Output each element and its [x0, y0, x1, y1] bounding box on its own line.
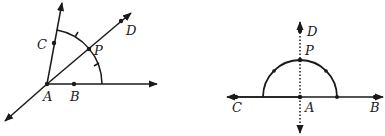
point-a-left — [45, 82, 49, 86]
label-b-left: B — [69, 89, 80, 104]
right-figure-perpendicular — [227, 22, 383, 133]
point-b-left — [72, 82, 76, 86]
label-a-right: A — [304, 100, 314, 115]
label-d-left: D — [125, 23, 137, 38]
label-a-left: A — [42, 89, 52, 104]
point-d-right — [298, 29, 302, 33]
label-b-right: B — [369, 100, 380, 115]
arc-mark-left — [272, 69, 276, 73]
left-figure-angle-bisector — [5, 3, 157, 121]
point-p-left — [87, 47, 91, 51]
left-figure-labels: A B C P D — [37, 23, 137, 104]
label-c-left: C — [37, 37, 47, 52]
label-p-right: P — [304, 43, 314, 58]
arc-end-right — [335, 95, 339, 99]
label-d-right: D — [306, 24, 318, 39]
right-figure-points — [234, 29, 377, 99]
point-c-left — [52, 41, 56, 45]
label-c-right: C — [232, 100, 242, 115]
point-c-right — [234, 95, 238, 99]
point-b-right — [373, 95, 377, 99]
point-p-right — [298, 58, 302, 62]
point-d-left — [119, 19, 123, 23]
geometry-diagram: A B C P D A B C P D — [0, 0, 385, 136]
label-p-left: P — [93, 43, 103, 58]
right-figure-labels: A B C P D — [232, 24, 380, 115]
arc-mark-right — [324, 69, 328, 73]
line-ad-extension — [5, 84, 47, 121]
point-a-right — [298, 95, 302, 99]
tick-mark-upper — [75, 32, 78, 37]
